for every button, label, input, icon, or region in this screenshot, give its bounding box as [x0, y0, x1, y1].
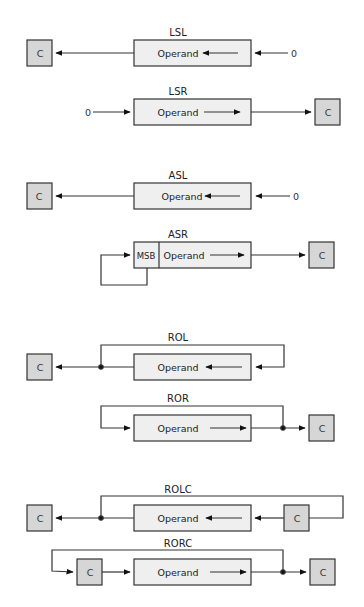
carry-text: C: [37, 48, 44, 59]
label-asl: ASL: [169, 170, 188, 181]
op-rol: [27, 345, 284, 380]
zero-text: 0: [293, 191, 299, 202]
op-asr: [101, 242, 334, 285]
carry-text: C: [37, 513, 44, 524]
operand-text: Operand: [157, 513, 198, 524]
zero-text: 0: [85, 107, 91, 118]
carry-text: C: [294, 513, 301, 524]
label-lsr: LSR: [169, 86, 188, 97]
msb-text: MSB: [137, 251, 156, 261]
carry-text: C: [319, 423, 326, 434]
label-rolc: ROLC: [164, 484, 191, 495]
carry-text: C: [325, 107, 332, 118]
op-asl: [27, 183, 290, 209]
operand-text: Operand: [157, 107, 198, 118]
operand-text: Operand: [157, 567, 198, 578]
label-lsl: LSL: [169, 27, 187, 38]
label-asr: ASR: [168, 229, 188, 240]
operand-text: Operand: [157, 362, 198, 373]
operand-text: Operand: [157, 48, 198, 59]
op-ror: [101, 406, 334, 441]
carry-text: C: [37, 362, 44, 373]
operand-text: Operand: [157, 423, 198, 434]
zero-text: 0: [291, 48, 297, 59]
shift-rotate-diagram: LSL Operand C 0 LSR Operand 0 C ASL Oper…: [0, 0, 364, 607]
carry-text: C: [36, 191, 43, 202]
carry-text: C: [87, 567, 94, 578]
operand-text: Operand: [161, 191, 202, 202]
carry-text: C: [320, 567, 327, 578]
label-rol: ROL: [168, 332, 189, 343]
label-ror: ROR: [167, 393, 189, 404]
op-lsr: [93, 99, 340, 125]
operand-text: Operand: [163, 250, 204, 261]
label-rorc: RORC: [164, 538, 192, 549]
carry-text: C: [319, 250, 326, 261]
